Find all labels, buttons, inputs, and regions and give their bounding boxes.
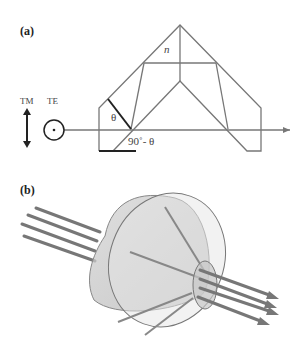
prism-diagram [0,0,307,180]
panel-b-label: (b) [20,183,35,198]
tm-arrow-icon [23,108,31,148]
te-circle-icon [44,120,64,140]
